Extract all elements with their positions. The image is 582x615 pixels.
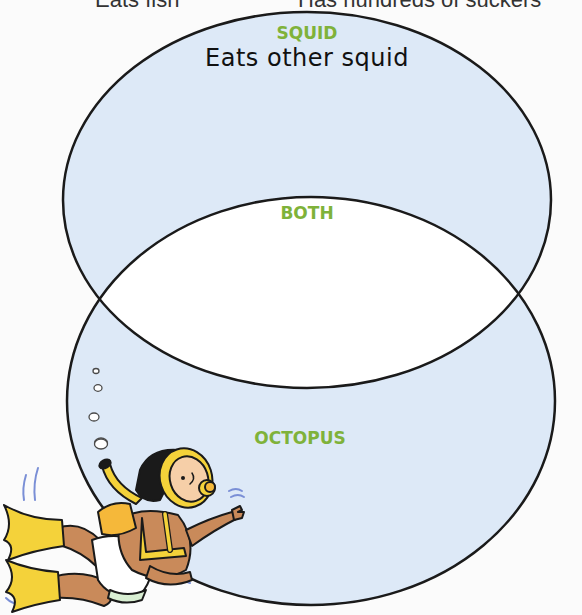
squid-label: SQUID <box>277 23 338 43</box>
both-label: BOTH <box>280 203 333 223</box>
squid-entry: Eats other squid <box>205 44 409 72</box>
venn-diagram <box>0 0 582 615</box>
octopus-label: OCTOPUS <box>254 428 345 448</box>
